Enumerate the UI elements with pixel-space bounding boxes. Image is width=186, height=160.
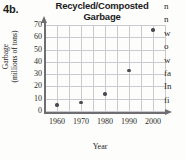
gridline-vertical bbox=[153, 25, 154, 111]
chart-title: Recycled/Composted Garbage bbox=[42, 1, 162, 22]
bleed-text-line: n bbox=[164, 13, 186, 26]
gridline-vertical bbox=[117, 25, 118, 111]
gridline-vertical bbox=[105, 25, 106, 111]
y-axis-line bbox=[44, 22, 46, 114]
y-tick-label: 50 bbox=[20, 46, 42, 54]
x-axis-tick-labels: 19601970198019902000 bbox=[0, 118, 186, 132]
y-tick-label: 10 bbox=[20, 95, 42, 103]
adjacent-column-text: nnwowfaInfi bbox=[164, 0, 186, 160]
bleed-text-line: o bbox=[164, 40, 186, 53]
y-axis-title-line-2: (millions of tons) bbox=[10, 17, 19, 97]
data-point bbox=[79, 101, 82, 104]
gridline-vertical bbox=[93, 25, 94, 111]
gridline-vertical bbox=[69, 25, 70, 111]
chart-title-line-1: Recycled/Composted bbox=[42, 1, 162, 12]
y-tick-label: 60 bbox=[20, 33, 42, 41]
figure-root: 4b. Recycled/Composted Garbage 010203040… bbox=[0, 0, 186, 160]
y-tick-label: 0 bbox=[20, 107, 42, 115]
x-axis-title: Year bbox=[55, 142, 145, 151]
y-axis-title: Garbage (millions of tons) bbox=[2, 17, 19, 97]
gridline-vertical bbox=[57, 25, 58, 111]
data-point bbox=[127, 69, 130, 72]
gridline-vertical bbox=[141, 25, 142, 111]
bleed-text-line: In bbox=[164, 80, 186, 93]
y-tick-label: 20 bbox=[20, 82, 42, 90]
data-point bbox=[103, 92, 106, 95]
data-point bbox=[151, 28, 154, 31]
bleed-text-line: n bbox=[164, 0, 186, 13]
data-point bbox=[55, 103, 58, 106]
chart-title-line-2: Garbage bbox=[42, 12, 162, 23]
y-axis-tick-labels: 010203040506070 bbox=[18, 0, 42, 120]
plot-area bbox=[45, 25, 165, 111]
bleed-text-line: w bbox=[164, 27, 186, 40]
y-tick-label: 70 bbox=[20, 21, 42, 29]
gridline-vertical bbox=[81, 25, 82, 111]
bleed-text-line: fa bbox=[164, 67, 186, 80]
bleed-text-line: fi bbox=[164, 94, 186, 107]
x-axis-line bbox=[45, 112, 167, 114]
bleed-text-line: w bbox=[164, 54, 186, 67]
problem-number: 4b. bbox=[3, 3, 18, 15]
y-tick-label: 30 bbox=[20, 70, 42, 78]
y-tick-label: 40 bbox=[20, 58, 42, 66]
